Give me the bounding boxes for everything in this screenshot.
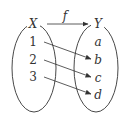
function-mapping-diagram: X Y f 1 2 3 a b c d: [0, 0, 129, 123]
codomain-label: Y: [94, 17, 103, 31]
domain-element-2: 2: [29, 53, 37, 67]
codomain-element-b: b: [94, 53, 102, 67]
mapping-arrow-1-to-b: [44, 42, 91, 59]
mapping-arrow-3-to-d: [44, 77, 91, 94]
codomain-element-c: c: [95, 71, 102, 85]
codomain-element-d: d: [94, 88, 102, 102]
domain-label: X: [28, 17, 38, 31]
domain-element-1: 1: [29, 35, 37, 49]
domain-element-3: 3: [29, 70, 37, 84]
mapping-arrow-2-to-c: [44, 60, 91, 77]
function-label: f: [62, 9, 70, 23]
codomain-element-a: a: [94, 35, 101, 49]
